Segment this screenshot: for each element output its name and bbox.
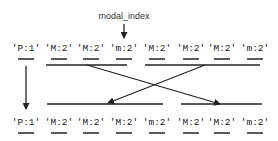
- bottom-row: 'P:1''M:2''M:2''M:2''m:2''M:2''M:2''m:2': [12, 117, 270, 133]
- top-row-token: 'M:2': [45, 43, 74, 54]
- bottom-row-token: 'M:2': [77, 117, 106, 128]
- top-row-token: 'M:2': [77, 43, 106, 54]
- top-row-token: 'P:1': [12, 43, 41, 54]
- bottom-row-token: 'm:2': [241, 117, 270, 128]
- bottom-row-token: 'M:2': [177, 117, 206, 128]
- bottom-row-token: 'm:2': [143, 117, 172, 128]
- top-row-token: 'm:2': [241, 43, 270, 54]
- top-row: 'P:1''M:2''M:2''m:2''M:2''M:2''M:2''m:2': [12, 43, 270, 59]
- bottom-row-token: 'M:2': [110, 117, 139, 128]
- rotation-diagram: modal_index 'P:1''M:2''M:2''m:2''M:2''M:…: [0, 0, 278, 141]
- bottom-row-token: 'M:2': [45, 117, 74, 128]
- move-right-segment-arrow: [108, 65, 205, 103]
- top-row-token: 'M:2': [208, 43, 237, 54]
- bottom-row-token: 'P:1': [12, 117, 41, 128]
- top-row-token: 'm:2': [110, 43, 139, 54]
- bottom-row-token: 'M:2': [208, 117, 237, 128]
- top-row-token: 'M:2': [143, 43, 172, 54]
- top-row-token: 'M:2': [177, 43, 206, 54]
- modal-index-label: modal_index: [98, 11, 150, 21]
